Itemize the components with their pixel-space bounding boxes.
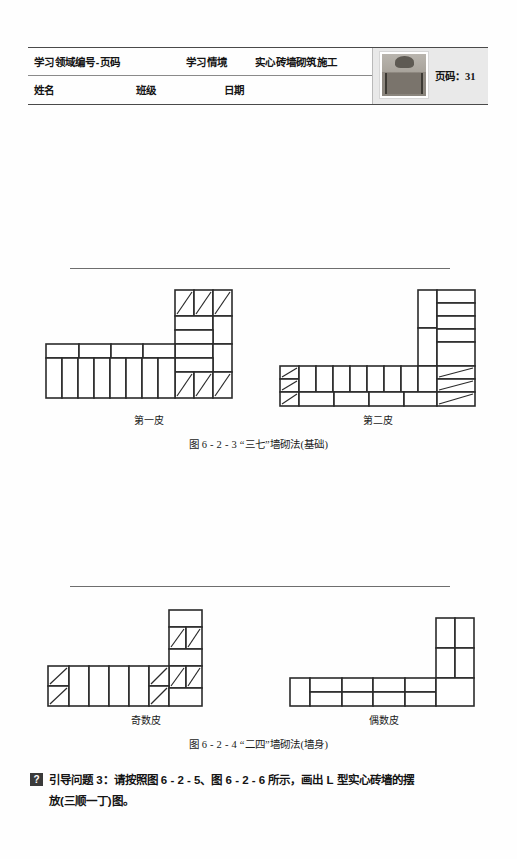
figure-6-2-4-left-diagram <box>46 608 246 708</box>
header-name-label: 姓名 <box>34 76 55 104</box>
header-class-label: 班级 <box>136 76 157 104</box>
brick-layout-even-course-svg <box>288 608 480 708</box>
divider-rule-top <box>70 268 450 269</box>
header-row-top: 学习领域编号-页码 学习情境 实心砖墙砌筑施工 <box>28 48 372 76</box>
header-date-label: 日期 <box>224 76 245 104</box>
brick-layout-first-course-svg <box>44 288 254 408</box>
divider-rule-bottom <box>70 586 450 587</box>
figure-6-2-3-left-label: 第一皮 <box>44 412 254 427</box>
guided-question-text-2: 放(三顺一丁)图。 <box>49 791 480 812</box>
header-situation-label: 学习情境 <box>186 48 227 76</box>
figure-6-2-3-right-label: 第二皮 <box>278 412 478 427</box>
header-right-panel: 页码：31 <box>372 48 488 104</box>
question-mark-icon: ? <box>30 773 43 786</box>
page-number-label: 页码： <box>435 70 465 82</box>
brick-building-photo-image <box>382 54 426 96</box>
figure-6-2-4-right-diagram <box>288 608 480 708</box>
brick-layout-odd-course-svg <box>46 608 246 708</box>
figure-6-2-4-left-label: 奇数皮 <box>46 712 246 727</box>
figure-6-2-3-caption: 图 6 - 2 - 3 “三七”墙砌法(基础) <box>0 436 517 451</box>
page-number-block: 页码：31 <box>435 48 489 104</box>
figure-6-2-4-caption: 图 6 - 2 - 4 “二四”墙砌法(墙身) <box>0 736 517 751</box>
header-topic-title: 实心砖墙砌筑施工 <box>255 48 337 76</box>
guided-question-block: ?引导问题 3：请按照图 6 - 2 - 5、图 6 - 2 - 6 所示，画出… <box>30 770 480 812</box>
document-page: 学习领域编号-页码 学习情境 实心砖墙砌筑施工 姓名 班级 日期 页码：31 <box>0 0 517 859</box>
brick-layout-second-course-svg <box>278 288 478 408</box>
header-field-label: 学习领域编号-页码 <box>34 48 120 76</box>
header-row-bottom: 姓名 班级 日期 <box>28 76 372 104</box>
guided-question-text-1: 引导问题 3：请按照图 6 - 2 - 5、图 6 - 2 - 6 所示，画出 … <box>49 774 414 786</box>
page-header-table: 学习领域编号-页码 学习情境 实心砖墙砌筑施工 姓名 班级 日期 页码：31 <box>28 47 488 105</box>
brick-building-photo <box>379 51 429 99</box>
figure-6-2-3-right-diagram <box>278 288 478 408</box>
figure-6-2-3-left-diagram <box>44 288 254 408</box>
guided-question-line-1: ?引导问题 3：请按照图 6 - 2 - 5、图 6 - 2 - 6 所示，画出… <box>30 770 480 791</box>
figure-6-2-4-right-label: 偶数皮 <box>288 712 480 727</box>
header-left-cells: 学习领域编号-页码 学习情境 实心砖墙砌筑施工 姓名 班级 日期 <box>28 48 372 104</box>
page-number-value: 31 <box>465 71 476 82</box>
